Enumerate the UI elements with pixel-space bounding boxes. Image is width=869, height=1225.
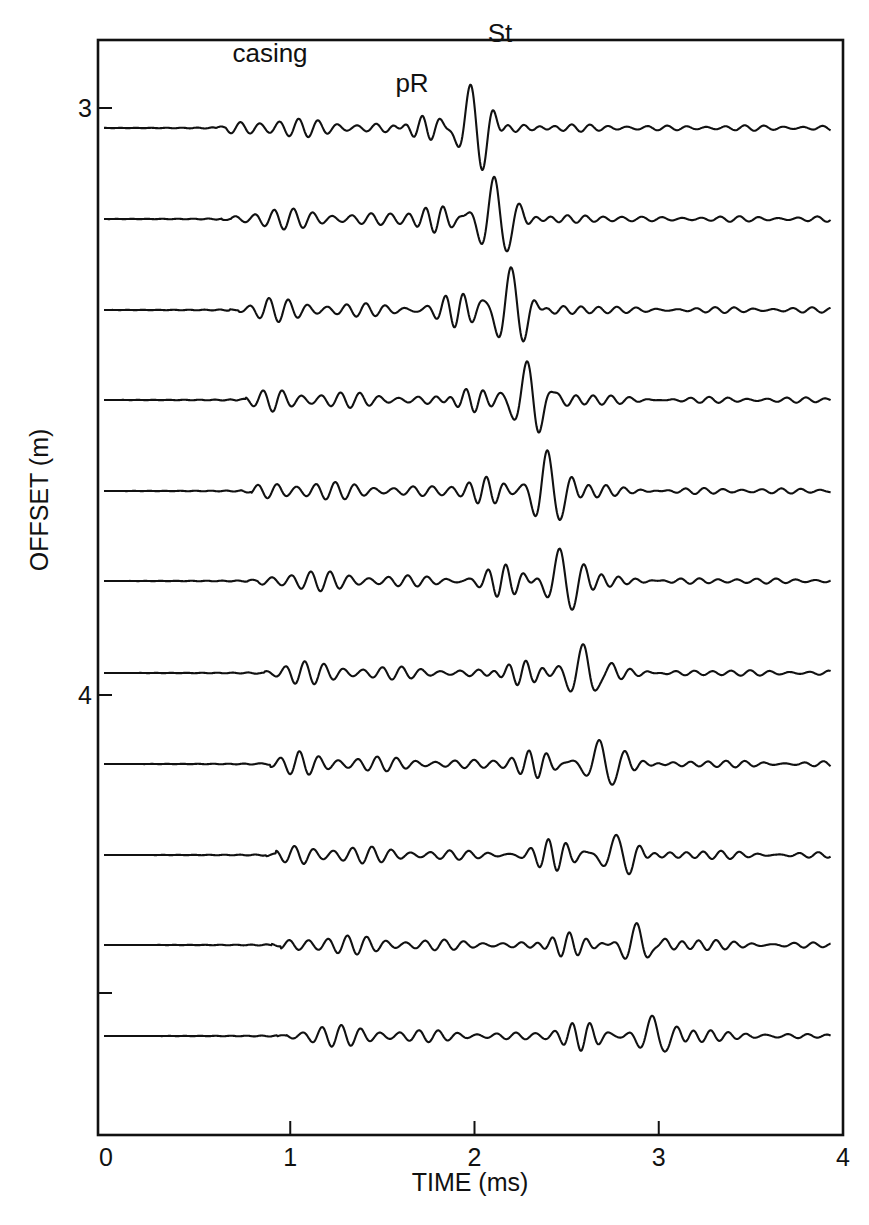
x-tick-label: 0: [99, 1143, 113, 1171]
waveform-trace: [104, 740, 831, 785]
x-tick-label: 1: [283, 1143, 297, 1171]
y-tick-label: 3: [78, 94, 92, 122]
x-axis-ticks: 01234: [99, 1121, 850, 1171]
waveform-trace: [104, 1016, 831, 1052]
annotation-st: St: [488, 18, 513, 48]
y-axis-ticks: 34: [78, 94, 112, 993]
waveform-trace: [104, 267, 831, 341]
waveform-trace: [104, 923, 831, 959]
waveform-trace: [104, 361, 831, 432]
plot-frame: [98, 40, 843, 1135]
waveform-trace: [104, 85, 831, 170]
x-tick-label: 2: [468, 1143, 482, 1171]
annotation-pr: pR: [395, 68, 428, 98]
annotation-casing: casing: [232, 38, 307, 68]
waveform-trace: [104, 450, 831, 520]
y-tick-label: 4: [78, 681, 92, 709]
waveform-traces: [104, 85, 831, 1052]
x-axis-label: TIME (ms): [412, 1168, 529, 1196]
x-tick-label: 3: [652, 1143, 666, 1171]
waveform-trace: [104, 644, 831, 691]
waveform-trace: [104, 177, 831, 252]
y-axis-label: OFFSET (m): [25, 429, 53, 572]
seismic-chart: 01234 34 TIME (ms) OFFSET (m) casingpRSt: [0, 0, 869, 1225]
x-tick-label: 4: [836, 1143, 850, 1171]
plot-border: [98, 40, 843, 1135]
waveform-trace: [104, 835, 831, 874]
waveform-trace: [104, 549, 831, 610]
